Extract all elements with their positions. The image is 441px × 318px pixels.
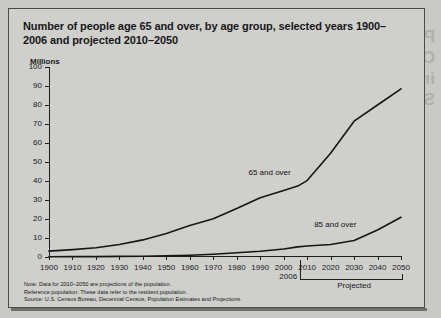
x-axis-tick <box>96 256 97 260</box>
chart-title: Number of people age 65 and over, by age… <box>23 19 403 47</box>
y-axis-tick-label: 60 <box>33 138 42 147</box>
y-axis-tick-label: 0 <box>38 252 42 261</box>
year-2006-label: 2006 <box>279 272 297 281</box>
x-axis-tick-label: 1910 <box>64 263 82 272</box>
x-axis-tick <box>143 256 144 260</box>
x-axis-tick-label: 1980 <box>228 263 246 272</box>
x-axis-tick <box>354 256 355 260</box>
y-axis-tick-label: 70 <box>33 119 42 128</box>
x-axis-tick <box>284 256 285 260</box>
x-axis-tick-label: 1900 <box>40 263 58 272</box>
y-axis-tick-label: 100 <box>29 62 42 71</box>
x-axis-tick-label: 1940 <box>134 263 152 272</box>
y-axis-tick-label: 40 <box>33 176 42 185</box>
x-axis-tick <box>72 256 73 260</box>
x-axis-tick-label: 2030 <box>345 263 363 272</box>
x-axis-tick <box>213 256 214 260</box>
x-axis-tick <box>331 256 332 260</box>
y-axis-tick-label: 20 <box>33 214 42 223</box>
reference-population-line: Reference population: These data refer t… <box>24 289 354 297</box>
y-axis-tick <box>45 200 49 201</box>
series-label-85-and-over: 85 and over <box>314 220 356 229</box>
x-axis-tick-label: 2040 <box>369 263 387 272</box>
x-axis-tick-label: 1930 <box>110 263 128 272</box>
x-axis-tick <box>237 256 238 260</box>
x-axis-tick <box>401 256 402 260</box>
y-axis-tick <box>45 86 49 87</box>
x-axis-tick-label: 2050 <box>392 263 410 272</box>
x-axis-tick-label: 2000 <box>275 263 293 272</box>
y-axis-tick <box>45 143 49 144</box>
source-line: Source: U.S. Census Bureau, Decennial Ce… <box>24 296 354 304</box>
x-axis-tick-label: 1950 <box>157 263 175 272</box>
x-axis-tick <box>260 256 261 260</box>
x-axis-tick <box>119 256 120 260</box>
x-axis-tick-label: 1970 <box>204 263 222 272</box>
x-axis-tick-label: 1990 <box>251 263 269 272</box>
chart-page: Prevention of Cardiovascular Disease in … <box>0 0 441 318</box>
y-axis-tick <box>45 181 49 182</box>
y-axis-tick-label: 10 <box>33 233 42 242</box>
x-axis-tick-label: 2020 <box>322 263 340 272</box>
x-axis-tick <box>190 256 191 260</box>
y-axis-tick <box>45 238 49 239</box>
figure-notes: Note: Data for 2010–2050 are projections… <box>24 281 354 304</box>
y-axis-tick <box>45 124 49 125</box>
y-axis-tick <box>45 219 49 220</box>
y-axis-tick-label: 50 <box>33 157 42 166</box>
plot-area: 0102030405060708090100190019101920193019… <box>49 67 401 257</box>
x-axis-tick <box>307 256 308 260</box>
x-axis-tick <box>378 256 379 260</box>
y-axis-tick-label: 80 <box>33 100 42 109</box>
note-line: Note: Data for 2010–2050 are projections… <box>24 281 354 289</box>
x-axis-tick-label: 1920 <box>87 263 105 272</box>
y-axis-tick <box>45 67 49 68</box>
series-label-65-and-over: 65 and over <box>248 168 290 177</box>
x-axis-tick <box>166 256 167 260</box>
y-axis-tick-label: 30 <box>33 195 42 204</box>
y-axis-tick <box>45 105 49 106</box>
projected-bracket <box>300 274 403 280</box>
x-axis-tick-label: 1960 <box>181 263 199 272</box>
y-axis-tick <box>45 162 49 163</box>
y-axis-tick-label: 90 <box>33 81 42 90</box>
figure-panel: Number of people age 65 and over, by age… <box>8 8 425 308</box>
x-axis-tick <box>49 256 50 260</box>
